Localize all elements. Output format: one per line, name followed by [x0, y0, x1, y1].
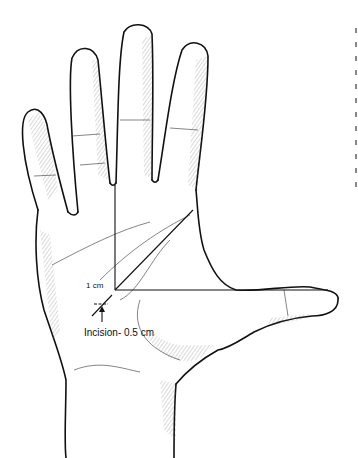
hand-outline — [23, 25, 339, 458]
clipped-side-text — [354, 28, 358, 198]
hand-illustration — [0, 0, 358, 458]
incision-label: Incision- 0.5 cm — [84, 327, 154, 338]
arrow-head — [99, 306, 105, 312]
distance-label: 1 cm — [86, 281, 103, 290]
landmark-lines — [92, 185, 328, 322]
diagonal-line — [115, 210, 193, 290]
